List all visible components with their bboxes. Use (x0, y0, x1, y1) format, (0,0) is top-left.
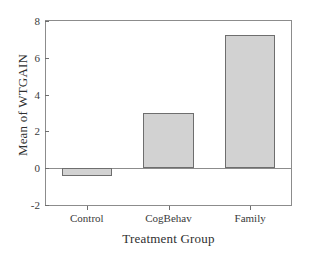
y-tick-mark (45, 58, 49, 59)
x-tick-label: Family (210, 212, 290, 225)
y-tick-mark (45, 131, 49, 132)
bar-chart-figure: Mean of WTGAIN -202468 ControlCogBehavFa… (0, 0, 312, 256)
bar-control (62, 168, 113, 176)
y-tick-mark (45, 21, 49, 22)
plot-area (46, 21, 291, 205)
y-tick-mark (45, 95, 49, 96)
y-tick-mark (45, 205, 49, 206)
y-tick-label: 4 (22, 90, 40, 101)
x-tick-label: CogBehav (129, 212, 209, 225)
y-tick-label: -2 (22, 200, 40, 211)
bar-family (225, 35, 276, 169)
x-tick-mark (250, 206, 251, 210)
y-axis-title: Mean of WTGAIN (14, 5, 32, 205)
x-tick-mark (87, 206, 88, 210)
x-tick-label: Control (47, 212, 127, 225)
y-tick-label: 0 (22, 163, 40, 174)
x-axis-title: Treatment Group (45, 231, 292, 247)
bar-cogbehav (143, 113, 194, 168)
plot-frame (45, 20, 292, 206)
y-tick-label: 2 (22, 126, 40, 137)
x-tick-mark (169, 206, 170, 210)
y-tick-mark (45, 168, 49, 169)
y-tick-label: 8 (22, 16, 40, 27)
y-tick-label: 6 (22, 53, 40, 64)
